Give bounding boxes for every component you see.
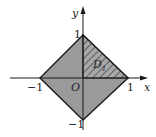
tick-y-pos: 1 [74, 28, 81, 41]
region-label-subscript: 1 [102, 65, 106, 73]
y-axis-arrow-icon [81, 6, 86, 14]
y-axis-label: y [71, 7, 79, 20]
x-axis-arrow-icon [140, 76, 148, 81]
x-axis-label: x [144, 81, 151, 94]
origin-label: O [71, 81, 80, 94]
tick-x-pos: 1 [127, 81, 134, 94]
region-label-main: D [92, 58, 102, 71]
tick-y-neg: −1 [68, 118, 84, 131]
coordinate-diagram: y x O 1 1 −1 −1 D1 [0, 0, 156, 137]
tick-x-neg: −1 [27, 81, 43, 94]
